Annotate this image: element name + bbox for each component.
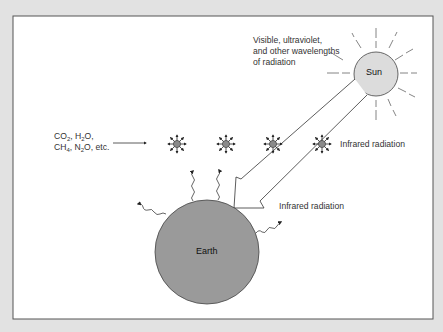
gases-line-2: CH4, N2O, etc. <box>54 142 109 153</box>
sun-label: Sun <box>366 67 382 77</box>
earth-label: Earth <box>196 246 218 256</box>
infrared-label-lower: Infrared radiation <box>279 201 344 212</box>
incoming-radiation-label: Visible, ultraviolet, and other waveleng… <box>253 35 339 68</box>
greenhouse-gases-label: CO2, H2O, CH4, N2O, etc. <box>54 131 109 153</box>
gases-line-1: CO2, H2O, <box>54 131 109 142</box>
infrared-label-upper: Infrared radiation <box>340 139 405 150</box>
diagram-canvas <box>0 0 443 332</box>
